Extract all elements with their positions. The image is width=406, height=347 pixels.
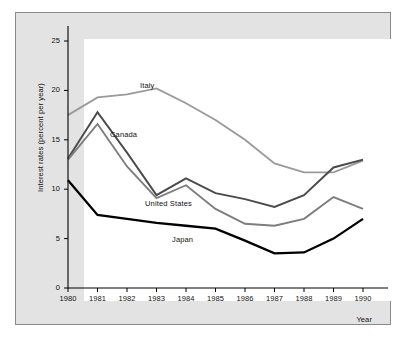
series-line-united-states bbox=[68, 124, 363, 226]
chart-figure: Interest rates (percent per year) Year 0… bbox=[0, 0, 406, 347]
y-tick-label: 5 bbox=[38, 234, 60, 243]
series-label-japan: Japan bbox=[172, 235, 193, 244]
series-label-italy: Italy bbox=[140, 81, 155, 90]
y-tick-label: 20 bbox=[38, 85, 60, 94]
y-tick-label: 25 bbox=[38, 36, 60, 45]
x-tick-label: 1990 bbox=[346, 294, 380, 303]
tick-marks bbox=[64, 41, 363, 292]
series-lines bbox=[68, 88, 363, 253]
series-line-japan bbox=[68, 180, 363, 253]
y-tick-label: 10 bbox=[38, 184, 60, 193]
y-tick-label: 15 bbox=[38, 135, 60, 144]
axis-lines bbox=[68, 26, 388, 288]
series-line-canada bbox=[68, 112, 363, 207]
y-tick-label: 0 bbox=[38, 283, 60, 292]
series-label-united-states: United States bbox=[145, 199, 192, 208]
series-label-canada: Canada bbox=[110, 130, 137, 139]
